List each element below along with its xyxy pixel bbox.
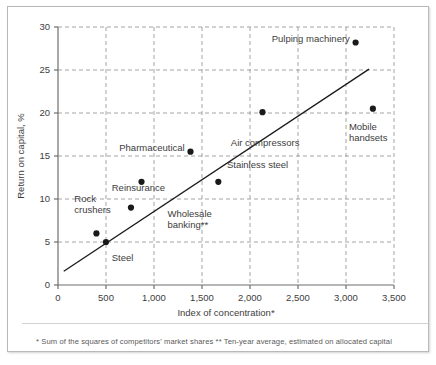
scatter-plot: 05101520253005001,0001,5002,0002,5003,00…: [8, 7, 430, 353]
x-axis-tick-label: 0: [55, 292, 60, 303]
y-axis-title: Return on capital, %: [15, 113, 26, 199]
data-point-label: Rockcrushers: [74, 193, 111, 215]
data-point-label-line: Wholesale: [167, 208, 211, 219]
data-point-label-line: Reinsurance: [112, 182, 165, 193]
data-point[interactable]: [138, 179, 144, 185]
x-axis-tick-label: 3,000: [334, 292, 358, 303]
data-point-label-line: Stainless steel: [227, 159, 288, 170]
trend-line: [64, 69, 369, 271]
data-point[interactable]: [128, 205, 134, 211]
x-axis-tick-label: 2,000: [238, 292, 262, 303]
data-point-label: Pharmaceutical: [119, 142, 184, 153]
x-axis-tick-label: 1,000: [142, 292, 166, 303]
data-point-label-line: Rock: [74, 193, 96, 204]
y-axis-tick-label: 10: [39, 193, 50, 204]
data-point-label: Pulping machinery: [272, 33, 350, 44]
data-point-label-line: Steel: [112, 252, 134, 263]
data-point-label-line: crushers: [74, 204, 111, 215]
data-point[interactable]: [215, 179, 221, 185]
chart-frame: 05101520253005001,0001,5002,0002,5003,00…: [7, 6, 429, 352]
data-point[interactable]: [103, 239, 109, 245]
x-axis-tick-label: 3,500: [382, 292, 406, 303]
data-point-label: Reinsurance: [112, 182, 165, 193]
y-axis-tick-label: 30: [39, 21, 50, 32]
x-axis-tick-label: 1,500: [190, 292, 214, 303]
x-axis-tick-label: 500: [98, 292, 114, 303]
footnote-text: * Sum of the squares of competitors' mar…: [36, 337, 392, 346]
data-point-label-line: handsets: [349, 132, 388, 143]
y-axis-tick-label: 15: [39, 150, 50, 161]
footnote-divider: [22, 323, 430, 324]
data-point-label: Mobilehandsets: [349, 121, 388, 143]
data-point[interactable]: [187, 149, 193, 155]
data-point[interactable]: [370, 106, 376, 112]
data-point-label-line: Pulping machinery: [272, 33, 350, 44]
x-axis-title: Index of concentration*: [177, 307, 274, 318]
data-point-label-line: Mobile: [349, 121, 377, 132]
x-axis-tick-label: 2,500: [286, 292, 310, 303]
y-axis-tick-label: 25: [39, 64, 50, 75]
data-point-label-line: Pharmaceutical: [119, 142, 184, 153]
y-axis-tick-label: 0: [45, 279, 50, 290]
data-point-label: Air compressors: [231, 137, 300, 148]
data-point[interactable]: [353, 39, 359, 45]
data-point[interactable]: [93, 230, 99, 236]
data-point[interactable]: [259, 109, 265, 115]
data-point-label-line: Air compressors: [231, 137, 300, 148]
chart-figure: 05101520253005001,0001,5002,0002,5003,00…: [0, 0, 436, 365]
y-axis-tick-label: 20: [39, 107, 50, 118]
data-point-label: Steel: [112, 252, 134, 263]
data-point-label-line: banking**: [167, 219, 208, 230]
y-axis-tick-label: 5: [45, 236, 50, 247]
data-point-label: Stainless steel: [227, 159, 288, 170]
data-point-label: Wholesalebanking**: [167, 208, 211, 230]
